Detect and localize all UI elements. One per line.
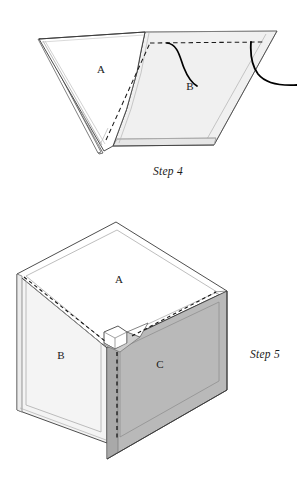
step5-label-c: C	[156, 358, 164, 370]
panel-b-left-selvedge	[17, 274, 22, 412]
step-5-caption: Step 5	[250, 348, 280, 361]
illustration-page: A B Step 4	[0, 0, 297, 486]
step5-label-a: A	[115, 273, 123, 285]
step5-label-b: B	[57, 349, 65, 361]
step-5-figure: A B C Step 5	[0, 0, 297, 486]
